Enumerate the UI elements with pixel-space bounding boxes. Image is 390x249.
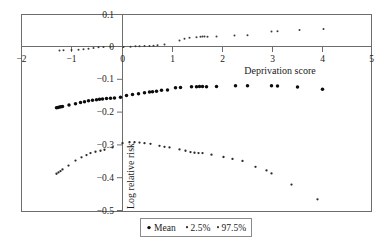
data-point (276, 84, 280, 88)
x-tick-label: 1 (170, 54, 175, 64)
legend-label-mean: Mean (154, 223, 176, 233)
data-point (241, 160, 243, 162)
legend-marker-upper-icon (217, 226, 219, 228)
data-point (119, 95, 123, 99)
data-point (85, 154, 87, 156)
data-point (299, 29, 301, 31)
data-point (88, 48, 90, 50)
data-point (121, 142, 123, 144)
data-point (290, 183, 292, 185)
data-point (163, 146, 165, 148)
data-point (98, 97, 102, 101)
data-point (190, 85, 194, 89)
data-point (139, 45, 141, 47)
y-tick-label: 0.1 (102, 10, 114, 20)
data-point (83, 100, 87, 104)
data-point (89, 152, 91, 154)
data-point (201, 152, 203, 154)
data-point (110, 46, 112, 48)
data-point (201, 85, 205, 89)
data-point (105, 97, 109, 101)
data-point (189, 37, 191, 39)
data-point (91, 98, 95, 102)
data-point (155, 90, 159, 94)
data-point (215, 85, 219, 89)
data-point (55, 173, 57, 175)
y-tick-label: −0.2 (97, 107, 114, 117)
legend-label-upper: 97.5% (222, 223, 247, 233)
data-point (210, 154, 212, 156)
data-point (178, 148, 180, 150)
data-point (196, 36, 198, 38)
x-tick-label: −1 (66, 54, 76, 64)
data-point (321, 88, 325, 92)
data-point (135, 45, 137, 47)
data-point (216, 36, 218, 38)
data-point (160, 89, 164, 93)
data-point (296, 85, 300, 89)
data-point (143, 91, 147, 95)
data-point (113, 96, 117, 100)
data-point (164, 43, 166, 45)
data-point (184, 38, 186, 40)
data-point (61, 168, 63, 170)
x-tick-label: 3 (270, 54, 275, 64)
data-point (151, 90, 155, 94)
data-point (67, 164, 69, 166)
data-point (63, 49, 65, 51)
legend-marker-lower-icon (186, 226, 188, 228)
x-axis-title: Deprivation score (244, 65, 316, 76)
data-point (67, 103, 71, 107)
data-point (130, 46, 132, 48)
data-point (80, 156, 82, 158)
y-tick-label: −0.4 (97, 173, 114, 183)
data-point (133, 141, 135, 143)
data-point (137, 92, 141, 96)
data-point (246, 84, 250, 88)
data-point (198, 85, 202, 89)
data-point (158, 145, 160, 147)
x-tick-label: 5 (369, 54, 374, 64)
figure-container: −2 −1 0 1 2 3 4 5 0.1 0 −0.1 −0.2 −0.3 −… (0, 0, 390, 249)
x-tick-label: 2 (220, 54, 225, 64)
data-point (184, 150, 186, 152)
x-tick-label: 4 (320, 54, 325, 64)
data-point (166, 88, 170, 92)
y-tick-label: −0.5 (97, 206, 114, 216)
data-point (59, 50, 61, 52)
data-point (277, 30, 279, 32)
data-point (207, 36, 209, 38)
data-point (143, 142, 145, 144)
data-point (234, 84, 238, 88)
data-point (123, 46, 125, 48)
data-point (59, 170, 61, 172)
x-tick-label: 0 (120, 54, 125, 64)
legend: Mean 2.5% 97.5% (141, 219, 252, 237)
data-point (109, 96, 113, 100)
y-tick-label: −0.3 (97, 140, 114, 150)
data-point (271, 31, 273, 33)
data-point (83, 48, 85, 50)
data-point (103, 46, 105, 48)
data-point (103, 149, 105, 151)
scatter-chart: −2 −1 0 1 2 3 4 5 0.1 0 −0.1 −0.2 −0.3 −… (0, 0, 390, 249)
data-point (202, 36, 204, 38)
data-point (93, 47, 95, 49)
data-point (57, 171, 59, 173)
data-point (193, 152, 195, 154)
legend-label-lower: 2.5% (191, 223, 211, 233)
data-point (74, 102, 78, 106)
data-point (138, 141, 140, 143)
data-point (95, 98, 99, 102)
data-point (270, 84, 274, 88)
data-point (128, 141, 130, 143)
y-tick-label: −0.1 (97, 74, 114, 84)
data-point (98, 46, 100, 48)
data-point (204, 36, 206, 38)
data-point (265, 169, 267, 171)
data-point (125, 94, 129, 98)
data-point (174, 86, 178, 90)
data-point (231, 158, 233, 160)
data-point (205, 85, 209, 89)
data-point (254, 166, 256, 168)
